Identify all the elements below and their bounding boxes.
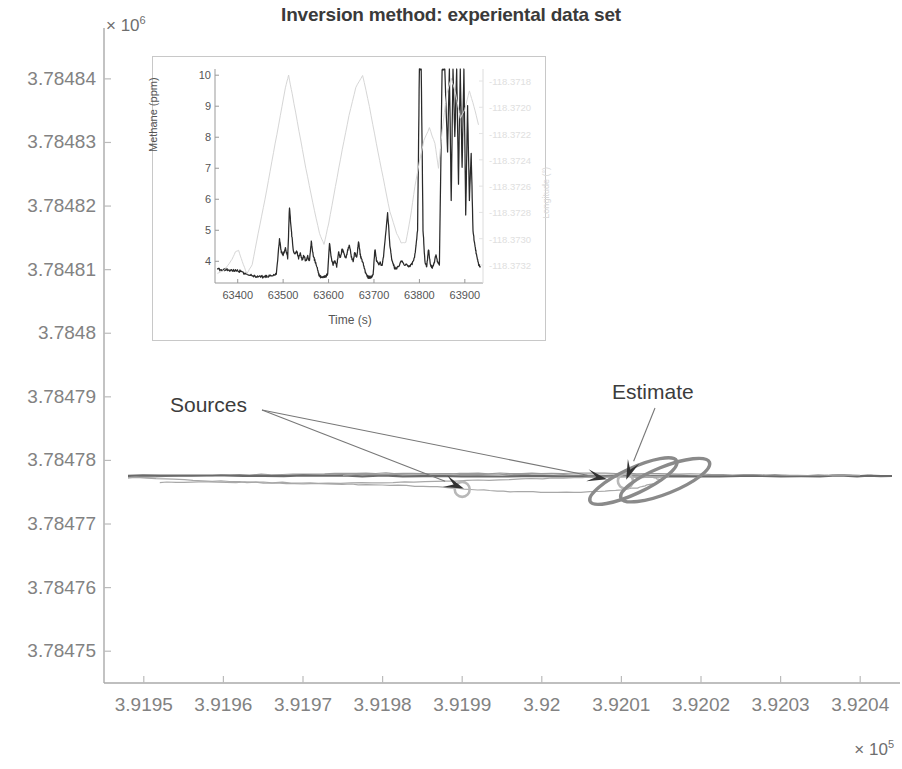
inset-plot-area — [153, 57, 547, 342]
annotation-leader-line — [262, 410, 587, 475]
annotation-estimate: Estimate — [612, 380, 694, 404]
y-tick-label: 3.78483 — [0, 131, 96, 153]
inset-x-tick-label: 63800 — [404, 289, 435, 301]
inset-right-tick-label: -118.3732 — [489, 260, 531, 271]
inset-right-tick-label: -118.3726 — [489, 181, 531, 192]
inset-y-tick-label: 10 — [183, 69, 211, 81]
inset-right-tick-label: -118.3720 — [489, 102, 531, 113]
inset-x-tick-label: 63600 — [313, 289, 344, 301]
plume-contour-line — [128, 476, 661, 492]
inset-y-axis-label: Methane (ppm) — [147, 77, 159, 152]
inset-methane-trace — [217, 69, 480, 278]
inset-right-tick-label: -118.3722 — [489, 128, 531, 139]
y-tick-label: 3.78484 — [0, 68, 96, 90]
y-tick-label: 3.78476 — [0, 577, 96, 599]
annotation-leader-line — [634, 408, 655, 461]
x-tick-label: 3.9204 — [831, 694, 889, 716]
inset-y-tick-label: 9 — [183, 100, 211, 112]
inset-right-tick-label: -118.3718 — [489, 76, 531, 87]
inset-plot: Methane (ppm) Time (s) Longitude (°) 456… — [152, 56, 546, 341]
inset-right-axis-label: Longitude (°) — [541, 167, 551, 219]
inset-right-tick-label: -118.3730 — [489, 233, 531, 244]
y-tick-label: 3.7848 — [0, 322, 96, 344]
annotation-leader-line — [262, 410, 445, 481]
y-tick-label: 3.78477 — [0, 513, 96, 535]
x-tick-label: 3.9195 — [115, 694, 173, 716]
plume-contour-line — [128, 475, 892, 476]
figure-canvas: Inversion method: experiental data set ×… — [0, 0, 902, 769]
inset-x-tick-label: 63900 — [450, 289, 481, 301]
y-tick-label: 3.78478 — [0, 449, 96, 471]
x-tick-label: 3.9198 — [354, 694, 412, 716]
y-tick-label: 3.78475 — [0, 640, 96, 662]
x-tick-label: 3.9199 — [433, 694, 491, 716]
inset-y-tick-label: 7 — [183, 162, 211, 174]
x-tick-label: 3.9201 — [592, 694, 650, 716]
inset-x-tick-label: 63400 — [222, 289, 253, 301]
y-tick-label: 3.78481 — [0, 259, 96, 281]
y-tick-label: 3.78482 — [0, 195, 96, 217]
inset-x-axis-label: Time (s) — [153, 313, 547, 327]
x-tick-label: 3.9202 — [672, 694, 730, 716]
inset-right-tick-label: -118.3724 — [489, 154, 531, 165]
x-tick-label: 3.9197 — [274, 694, 332, 716]
inset-y-tick-label: 4 — [183, 255, 211, 267]
x-tick-label: 3.9203 — [752, 694, 810, 716]
inset-y-tick-label: 8 — [183, 131, 211, 143]
inset-x-tick-label: 63500 — [268, 289, 299, 301]
annotation-sources: Sources — [170, 393, 247, 417]
y-tick-label: 3.78479 — [0, 386, 96, 408]
inset-y-tick-label: 6 — [183, 193, 211, 205]
inset-right-tick-label: -118.3728 — [489, 207, 531, 218]
inset-x-tick-label: 63700 — [359, 289, 390, 301]
inset-y-tick-label: 5 — [183, 224, 211, 236]
x-tick-label: 3.92 — [523, 694, 560, 716]
x-tick-label: 3.9196 — [194, 694, 252, 716]
